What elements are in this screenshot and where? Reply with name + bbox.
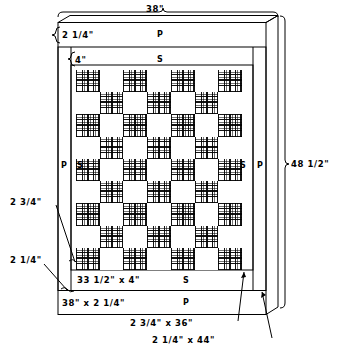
quilt-block-plaid bbox=[195, 92, 219, 114]
quilt-block-plaid bbox=[76, 70, 100, 92]
outer-3d-right-edge bbox=[266, 16, 278, 315]
quilt-block-plaid bbox=[147, 92, 171, 114]
quilt-block-plaid bbox=[171, 203, 195, 225]
quilt-block-plaid bbox=[171, 70, 195, 92]
quilt-block-plain bbox=[171, 226, 195, 248]
quilt-block-plaid bbox=[218, 159, 242, 181]
quilt-block-plaid bbox=[218, 248, 242, 270]
quilt-block-plain bbox=[76, 137, 100, 159]
quilt-block-plaid bbox=[100, 92, 124, 114]
quilt-block-plaid bbox=[123, 70, 147, 92]
quilt-block-plain bbox=[171, 137, 195, 159]
quilt-block-plaid bbox=[147, 137, 171, 159]
quilt-block-plain bbox=[100, 203, 124, 225]
quilt-block-plaid bbox=[147, 181, 171, 203]
quilt-block-plain bbox=[195, 114, 219, 136]
quilt-block-plaid bbox=[171, 248, 195, 270]
quilt-block-plaid bbox=[76, 114, 100, 136]
quilt-block-plain bbox=[147, 248, 171, 270]
quilt-block-plain bbox=[171, 92, 195, 114]
dim-left-callout-lower: 2 1/4" bbox=[10, 256, 42, 265]
quilt-block-plain bbox=[195, 248, 219, 270]
quilt-block-plain bbox=[123, 92, 147, 114]
dim-bottom-band-p: 38" x 2 1/4" bbox=[62, 299, 125, 308]
quilt-block-plain bbox=[195, 159, 219, 181]
quilt-block-plain bbox=[147, 114, 171, 136]
band-letter-left-s: S bbox=[77, 162, 83, 170]
brace-top-p bbox=[52, 27, 60, 43]
quilt-diagram: 38" 2 1/4" P 4" S P S S P 48 1/2" 2 3/4"… bbox=[0, 0, 338, 350]
quilt-block-plain bbox=[218, 226, 242, 248]
quilt-block-plain bbox=[100, 159, 124, 181]
quilt-block-plaid bbox=[100, 226, 124, 248]
bracket-2-14-target bbox=[61, 288, 74, 292]
leader-2-14 bbox=[44, 264, 67, 290]
quilt-block-plaid bbox=[123, 114, 147, 136]
quilt-block-plaid bbox=[218, 70, 242, 92]
quilt-block-plaid bbox=[123, 248, 147, 270]
quilt-block-plain bbox=[100, 248, 124, 270]
quilt-block-plaid bbox=[123, 203, 147, 225]
dim-side-strip-s: 2 3/4" x 36" bbox=[130, 319, 193, 328]
dim-bottom-band-s: 33 1/2" x 4" bbox=[77, 276, 140, 285]
quilt-block-plain bbox=[147, 203, 171, 225]
band-letter-bottom-p: P bbox=[183, 299, 189, 307]
band-letter-top-p: P bbox=[157, 31, 163, 39]
quilt-block-plaid bbox=[100, 137, 124, 159]
dim-overall-width: 38" bbox=[146, 5, 164, 14]
quilt-block-plain bbox=[100, 70, 124, 92]
band-letter-bottom-s: S bbox=[183, 277, 189, 285]
quilt-block-plaid bbox=[195, 226, 219, 248]
quilt-block-plain bbox=[195, 70, 219, 92]
quilt-block-plain bbox=[76, 226, 100, 248]
leader-s-strip bbox=[238, 272, 244, 321]
dim-left-callout-upper: 2 3/4" bbox=[10, 198, 42, 207]
quilt-block-plain bbox=[218, 92, 242, 114]
band-letter-top-s: S bbox=[157, 56, 163, 64]
quilt-block-plain bbox=[218, 181, 242, 203]
quilt-block-plaid bbox=[171, 159, 195, 181]
outer-3d-top-edge bbox=[58, 16, 278, 23]
quilt-block-plaid bbox=[218, 203, 242, 225]
quilt-block-plain bbox=[195, 203, 219, 225]
quilt-center-grid bbox=[76, 70, 242, 270]
quilt-block-plain bbox=[171, 181, 195, 203]
quilt-block-plaid bbox=[195, 181, 219, 203]
quilt-block-plaid bbox=[76, 203, 100, 225]
quilt-block-plaid bbox=[123, 159, 147, 181]
quilt-block-plaid bbox=[218, 114, 242, 136]
quilt-block-plain bbox=[218, 137, 242, 159]
quilt-block-plaid bbox=[147, 226, 171, 248]
brace-overall-height bbox=[280, 16, 289, 308]
quilt-block-plaid bbox=[100, 181, 124, 203]
quilt-block-plain bbox=[100, 114, 124, 136]
quilt-block-plain bbox=[147, 70, 171, 92]
quilt-block-plain bbox=[123, 181, 147, 203]
quilt-block-plain bbox=[123, 226, 147, 248]
band-letter-left-p: P bbox=[61, 162, 67, 170]
quilt-block-plain bbox=[76, 181, 100, 203]
leader-2-34 bbox=[56, 205, 75, 262]
quilt-block-plaid bbox=[76, 248, 100, 270]
quilt-block-plain bbox=[76, 92, 100, 114]
quilt-block-plain bbox=[123, 137, 147, 159]
dim-top-border-s: 4" bbox=[75, 56, 87, 65]
quilt-block-plain bbox=[147, 159, 171, 181]
dim-top-border-p: 2 1/4" bbox=[62, 31, 94, 40]
band-letter-right-s: S bbox=[240, 162, 246, 170]
dim-side-strip-p: 2 1/4" x 44" bbox=[152, 336, 215, 345]
quilt-block-plaid bbox=[195, 137, 219, 159]
band-letter-right-p: P bbox=[257, 162, 263, 170]
quilt-block-plaid bbox=[171, 114, 195, 136]
dim-overall-height: 48 1/2" bbox=[291, 160, 329, 169]
